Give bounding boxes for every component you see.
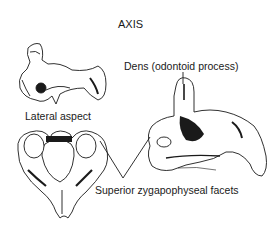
superior-view-drawing <box>18 131 108 218</box>
anatomical-illustration <box>0 0 274 227</box>
lateral-view-drawing <box>19 44 106 105</box>
oblique-view-drawing <box>148 78 266 176</box>
